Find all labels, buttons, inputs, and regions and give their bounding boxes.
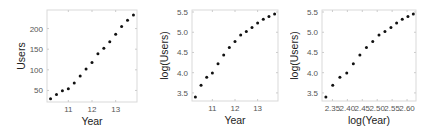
data-point [234,40,237,43]
y-tick-label: 50 [34,86,43,95]
data-point [132,13,135,16]
data-point [262,18,265,21]
x-tick-label: 13 [253,104,262,113]
data-point [395,21,398,24]
x-tick-label: 2.60 [399,104,415,113]
y-tick-label: 5.5 [307,8,319,17]
y-axis-label: Users [15,42,27,69]
data-point [324,95,327,98]
y-tick-label: 5.5 [177,8,189,17]
data-point [85,67,88,70]
x-tick-label: 11 [64,105,73,114]
data-point [267,15,270,18]
data-point [358,53,361,56]
data-point [345,72,348,75]
data-point [256,21,259,24]
data-point [331,84,334,87]
x-tick-label: 2.35 [325,104,341,113]
data-point [245,30,248,33]
data-point [389,26,392,29]
users-vs-year-chart: 50100150200111213YearUsers [0,0,145,131]
x-tick-label: 2.40 [340,104,356,113]
data-point [205,76,208,79]
data-point [120,25,123,28]
data-point [79,75,82,78]
data-point [352,62,355,65]
data-point [401,18,404,21]
data-point [96,52,99,55]
data-point [383,30,386,33]
y-tick-label: 4.0 [307,69,319,78]
x-tick-label: 11 [208,104,217,113]
data-point [412,13,415,16]
data-point [194,95,197,98]
data-point [250,26,253,29]
data-point [338,76,341,79]
y-tick-label: 3.5 [307,89,319,98]
y-tick-label: 5.0 [177,28,189,37]
data-point [371,40,374,43]
data-point [217,62,220,65]
data-point [55,93,58,96]
y-tick-label: 200 [30,25,44,34]
x-tick-label: 12 [231,104,240,113]
x-axis-label: Year [81,115,103,127]
x-tick-label: 2.45 [354,104,370,113]
y-tick-label: 4.5 [177,48,189,57]
data-point [49,97,52,100]
data-point [365,46,368,49]
data-point [102,47,105,50]
y-tick-label: 5.0 [307,28,319,37]
log-users-vs-year-chart: 3.54.04.55.05.5111213Yearlog(Users) [145,0,290,131]
data-point [273,13,276,16]
y-axis-label: log(Users) [290,31,300,79]
x-tick-label: 13 [111,105,120,114]
data-point [377,34,380,37]
x-tick-label: 2.55 [384,104,400,113]
data-point [406,15,409,18]
y-tick-label: 100 [30,66,44,75]
data-point [91,61,94,64]
data-point [61,89,64,92]
y-tick-label: 150 [30,45,44,54]
y-tick-label: 4.0 [177,69,189,78]
plot-frame [192,10,278,101]
x-axis-label: log(Year) [348,114,390,126]
data-point [67,87,70,90]
data-point [126,19,129,22]
data-point [73,82,76,85]
data-point [114,33,117,36]
data-point [200,84,203,87]
plot-frame [47,10,137,102]
y-axis-label: log(Users) [158,31,170,79]
data-point [211,72,214,75]
y-tick-label: 3.5 [177,89,189,98]
x-tick-label: 2.50 [369,104,385,113]
log-users-vs-log-year-chart: 3.54.04.55.05.52.352.402.452.502.552.60l… [290,0,435,131]
data-point [108,40,111,43]
y-tick-label: 4.5 [307,48,319,57]
data-point [239,34,242,37]
plot-frame [322,10,416,101]
data-point [228,46,231,49]
x-axis-label: Year [224,114,246,126]
data-point [222,53,225,56]
x-tick-label: 12 [88,105,97,114]
